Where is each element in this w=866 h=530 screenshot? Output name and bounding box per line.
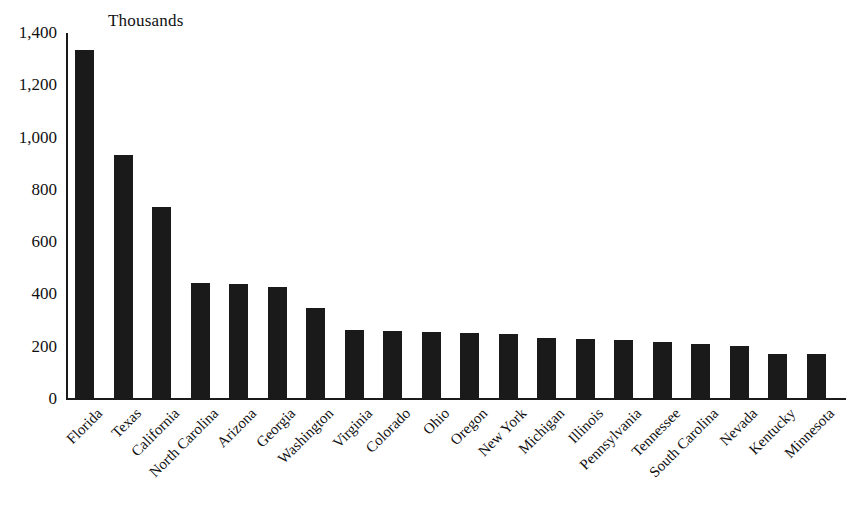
y-axis-tick-label: 1,200	[19, 75, 57, 95]
y-axis-tick-label: 400	[32, 284, 58, 304]
y-axis-tick-label: 1,400	[19, 23, 57, 43]
bar-chart: Thousands 02004006008001,0001,2001,400 F…	[0, 0, 866, 530]
bar	[75, 50, 94, 398]
bar	[114, 155, 133, 398]
y-axis-tick-label: 800	[32, 180, 58, 200]
plot-area	[66, 33, 846, 401]
x-axis-category-labels: FloridaTexasCaliforniaNorth CarolinaAriz…	[66, 401, 866, 530]
chart-title: Thousands	[108, 11, 183, 31]
y-axis-tick-label: 1,000	[19, 128, 57, 148]
y-axis-tick-labels: 02004006008001,0001,2001,400	[0, 0, 66, 530]
bars-layer	[66, 33, 846, 399]
y-axis-tick-label: 600	[32, 232, 58, 252]
y-axis-tick-label: 0	[49, 389, 58, 409]
bar	[152, 207, 171, 398]
y-axis-tick-label: 200	[32, 337, 58, 357]
